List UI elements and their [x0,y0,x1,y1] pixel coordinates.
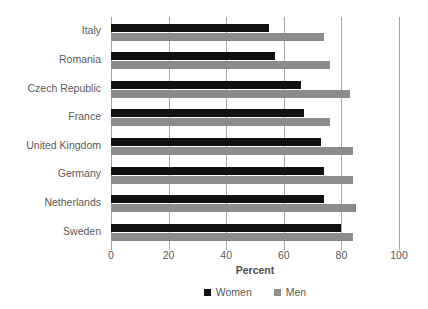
bar-men-united-kingdom [111,147,353,155]
bar-men-romania [111,61,330,69]
category-label-france: France [68,111,101,122]
bar-group [111,46,399,75]
x-tick-label-100: 100 [390,248,408,262]
bar-men-netherlands [111,204,356,212]
category-label-czech-republic: Czech Republic [27,83,101,94]
x-tick-label-80: 80 [336,248,348,262]
bar-group [111,160,399,189]
gray-square-icon [274,289,281,296]
bar-women-romania [111,52,275,60]
x-tick-label-60: 60 [278,248,290,262]
bar-group [111,74,399,103]
legend-item-men[interactable]: Men [274,286,306,298]
legend-label: Men [286,286,306,298]
x-tick-label-20: 20 [163,248,175,262]
bar-group [111,103,399,132]
category-axis-labels: ItalyRomaniaCzech RepublicFranceUnited K… [0,17,105,246]
black-square-icon [204,289,211,296]
legend-label: Women [216,286,252,298]
category-label-sweden: Sweden [63,226,101,237]
bar-women-czech-republic [111,81,301,89]
bar-men-czech-republic [111,90,350,98]
x-axis-title: Percent [111,264,399,276]
bar-chart: ItalyRomaniaCzech RepublicFranceUnited K… [0,0,428,309]
bar-women-netherlands [111,195,324,203]
x-axis-tick-labels: 020406080100 [0,248,428,264]
category-label-italy: Italy [82,25,101,36]
bar-women-italy [111,24,269,32]
bar-men-italy [111,33,324,41]
chart-legend: WomenMen [111,286,399,298]
bar-women-germany [111,167,324,175]
bar-group [111,217,399,246]
bar-men-france [111,118,330,126]
category-label-germany: Germany [58,168,101,179]
x-tick-label-40: 40 [220,248,232,262]
bar-women-united-kingdom [111,138,321,146]
bar-group [111,132,399,161]
bar-women-sweden [111,224,341,232]
plot-area [111,17,399,246]
gridline-100 [399,17,400,246]
bar-men-germany [111,176,353,184]
category-label-netherlands: Netherlands [44,197,101,208]
category-label-romania: Romania [59,54,101,65]
bar-men-sweden [111,233,353,241]
bar-group [111,189,399,218]
bar-group [111,17,399,46]
category-label-united-kingdom: United Kingdom [26,140,101,151]
bar-women-france [111,109,304,117]
legend-item-women[interactable]: Women [204,286,252,298]
x-tick-label-0: 0 [108,248,114,262]
